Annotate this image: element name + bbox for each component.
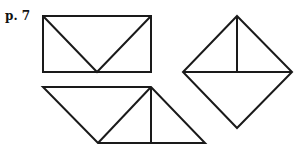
figure-parallelogram [43,87,205,143]
geometry-diagram [0,0,304,158]
figure-rectangle-with-v [43,16,151,72]
figure-diamond [183,16,292,128]
